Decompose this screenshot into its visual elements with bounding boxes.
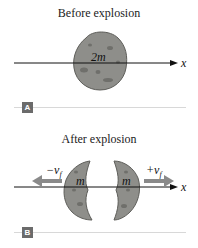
mass-label-right: m (122, 174, 131, 189)
velocity-label-right: +vf (146, 163, 162, 179)
divider-a (14, 107, 186, 108)
mass-label-2m: 2m (91, 50, 106, 65)
panel-b-title: After explosion (0, 132, 198, 147)
divider-b (14, 232, 186, 233)
panel-label-a: A (22, 102, 33, 113)
velocity-label-left: −vf (46, 163, 62, 179)
diagram-canvas (0, 0, 198, 248)
arrow-head-icon (170, 184, 178, 190)
axis-label-x-b: x (181, 180, 186, 195)
rock-left-m (64, 161, 92, 220)
panel-label-b: B (22, 227, 33, 238)
mass-label-left: m (76, 174, 85, 189)
axis-label-x-a: x (181, 56, 186, 71)
arrow-head-icon (170, 60, 178, 66)
rock-right-m (114, 161, 140, 220)
